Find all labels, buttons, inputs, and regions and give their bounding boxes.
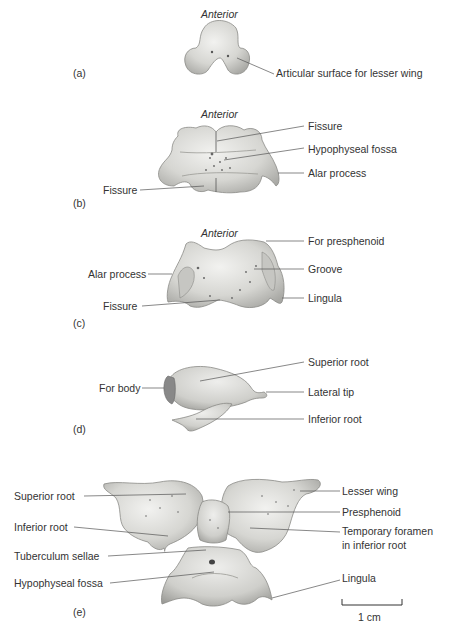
label-temporary-foramen-line2: in inferior root — [342, 539, 406, 551]
scale-bar — [342, 599, 402, 605]
panel-label-a: (a) — [73, 67, 86, 79]
label-superior-root-d: Superior root — [308, 356, 369, 368]
label-lingula-e: Lingula — [342, 572, 376, 584]
orientation-label-a: Anterior — [201, 8, 238, 20]
label-inferior-root-d: Inferior root — [308, 413, 362, 425]
panel-label-b: (b) — [73, 197, 86, 209]
label-alar-process-c: Alar process — [88, 268, 146, 280]
label-lingula-c: Lingula — [308, 292, 342, 304]
scale-bar-label: 1 cm — [358, 611, 381, 623]
label-for-body: For body — [99, 382, 140, 394]
label-inferior-root-e: Inferior root — [14, 521, 68, 533]
label-articular-surface: Articular surface for lesser wing — [276, 67, 422, 79]
bone-b-body — [159, 126, 279, 193]
label-presphenoid: Presphenoid — [342, 506, 401, 518]
label-groove: Groove — [308, 263, 342, 275]
panel-label-d: (d) — [73, 423, 86, 435]
label-superior-root-e: Superior root — [14, 490, 75, 502]
bone-e-assembled — [104, 479, 321, 606]
label-for-presphenoid: For presphenoid — [308, 235, 384, 247]
bone-c-body — [167, 240, 284, 308]
label-temporary-foramen: Temporary foramen — [342, 525, 433, 537]
label-tuberculum-sellae: Tuberculum sellae — [14, 550, 99, 562]
orientation-label-c: Anterior — [201, 227, 238, 239]
label-alar-process-b: Alar process — [308, 167, 366, 179]
label-fissure-b-bottom: Fissure — [103, 184, 137, 196]
label-hypophyseal-fossa-b: Hypophyseal fossa — [308, 143, 397, 155]
panel-label-e: (e) — [73, 606, 86, 618]
label-lesser-wing: Lesser wing — [342, 485, 398, 497]
panel-label-c: (c) — [73, 317, 85, 329]
orientation-label-b: Anterior — [201, 108, 238, 120]
label-lateral-tip: Lateral tip — [308, 386, 354, 398]
label-hypophyseal-fossa-e: Hypophyseal fossa — [14, 577, 103, 589]
bone-d-lesser-wing — [164, 366, 267, 431]
label-fissure-c: Fissure — [103, 300, 137, 312]
label-fissure-b-top: Fissure — [308, 120, 342, 132]
bone-a-presphenoid — [185, 21, 250, 75]
